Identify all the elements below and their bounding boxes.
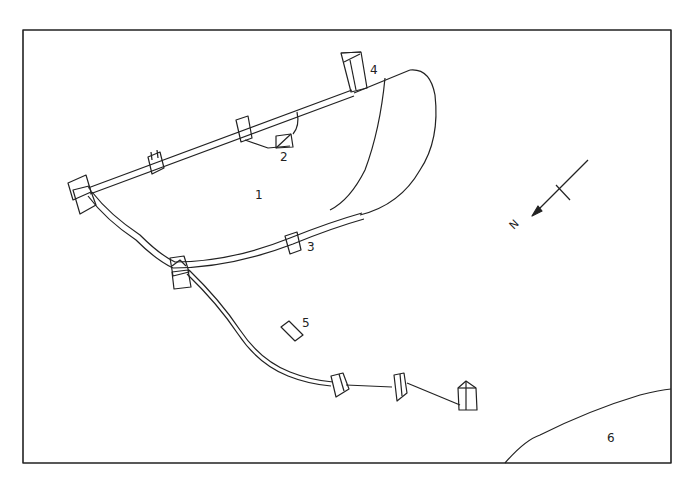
label-6: 6: [607, 432, 615, 444]
tower-south-c: [458, 381, 477, 410]
gate-structure: [148, 150, 164, 174]
feature-5: [281, 321, 303, 341]
area-6-boundary: [505, 389, 671, 463]
label-3: 3: [307, 241, 315, 253]
feature-2: [245, 112, 298, 148]
label-5: 5: [302, 317, 310, 329]
tower-central: [236, 116, 252, 142]
outer-wall-line: [187, 270, 460, 405]
tower-west: [68, 175, 96, 214]
tower-4: [341, 52, 367, 92]
north-arrow-icon: [532, 160, 588, 216]
south-wall: [88, 192, 364, 268]
tower-3: [285, 232, 301, 254]
label-2: 2: [280, 151, 288, 163]
label-1: 1: [255, 189, 263, 201]
map-frame: [23, 30, 671, 463]
label-4: 4: [370, 64, 378, 76]
site-plan-drawing: [0, 0, 699, 491]
